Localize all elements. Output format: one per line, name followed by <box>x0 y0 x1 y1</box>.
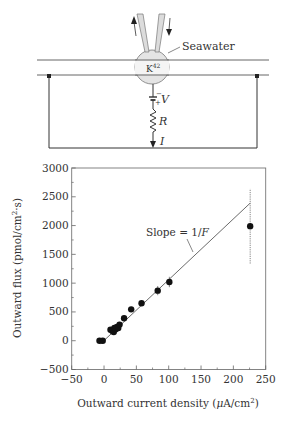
data-point <box>138 300 144 306</box>
y-axis-label-pre: Outward flux (pmol/cm <box>11 215 23 338</box>
data-point <box>111 325 117 331</box>
x-axis-label-pre: Outward current density ( <box>77 397 216 409</box>
x-axis-label-mid: A/cm <box>222 397 250 409</box>
pipette-left <box>137 14 149 52</box>
data-point <box>109 328 115 334</box>
data-point <box>116 321 122 327</box>
arrow-up-icon <box>131 16 137 24</box>
data-point <box>111 329 117 335</box>
voltage-label: V <box>161 93 170 106</box>
y-tick-label: 0 <box>62 334 69 346</box>
y-tick-label: 2000 <box>42 219 69 231</box>
resistance-label: R <box>158 115 167 128</box>
seawater-label: Seawater <box>182 40 236 53</box>
data-point <box>114 324 120 330</box>
slope-annotation-variable: F <box>201 226 210 238</box>
fit-line <box>101 203 250 343</box>
data-point <box>100 338 106 344</box>
x-tick-label: 200 <box>223 373 243 385</box>
x-axis-label: Outward current density (μA/cm2) <box>77 397 259 409</box>
plot-frame <box>72 168 266 370</box>
inflow-arrow <box>169 18 170 30</box>
y-axis-label: Outward flux (pmol/cm2·s) <box>11 198 23 338</box>
current-label: I <box>159 135 165 148</box>
data-point <box>121 315 127 321</box>
y-tick-label: 500 <box>49 305 69 317</box>
y-tick-label: 3000 <box>42 162 69 174</box>
x-tick-label: 100 <box>159 373 179 385</box>
data-point <box>107 327 113 333</box>
pipette-right <box>155 14 165 52</box>
y-axis-label-post: ·s) <box>11 198 23 211</box>
x-axis-label-mu: μ <box>216 397 223 409</box>
x-axis-label-sup: 2 <box>250 397 254 405</box>
slope-annotation-text: Slope = 1/ <box>146 226 202 238</box>
slope-annotation: Slope = 1/F <box>146 226 210 238</box>
y-tick-label: 2500 <box>42 190 69 202</box>
data-point <box>155 287 161 293</box>
y-tick-label: 1000 <box>42 277 69 289</box>
resistor <box>150 109 156 132</box>
x-tick-label: 250 <box>256 373 276 385</box>
data-point <box>247 223 253 229</box>
data-point <box>166 279 172 285</box>
y-tick-label: −500 <box>40 363 69 375</box>
current-arrow-icon <box>150 141 156 148</box>
data-point <box>96 338 102 344</box>
x-axis-label-post: ) <box>255 397 259 409</box>
outflow-arrow <box>134 22 136 36</box>
x-tick-label: 150 <box>191 373 211 385</box>
isotope-mass: 42 <box>153 62 161 69</box>
slope-annotation-leader <box>187 239 193 252</box>
electrode-left <box>47 74 51 78</box>
data-point <box>115 325 121 331</box>
circuit-diagram: Seawater K42 − + V R I <box>0 0 290 160</box>
y-tick-label: 1500 <box>42 248 69 260</box>
x-tick-label: −50 <box>61 373 83 385</box>
data-point <box>112 326 118 332</box>
seawater-leader <box>168 47 180 53</box>
arrow-down-icon <box>166 29 172 36</box>
data-point <box>128 306 134 312</box>
electrode-right <box>255 74 259 78</box>
y-axis-label-sup: 2 <box>11 211 19 215</box>
x-tick-label: 50 <box>130 373 143 385</box>
x-tick-label: 0 <box>101 373 108 385</box>
